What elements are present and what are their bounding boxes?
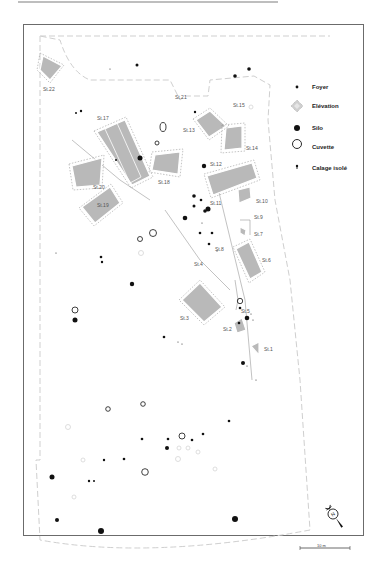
silo-points — [50, 64, 251, 535]
legend-item-foyer: Foyer — [290, 80, 328, 94]
structure-st20 — [72, 158, 102, 187]
excavation-boundary — [36, 36, 330, 548]
svg-text:St.20: St.20 — [93, 184, 105, 190]
structure-st1 — [251, 342, 259, 355]
structure-st7 — [240, 227, 246, 236]
structure-st6 — [236, 242, 262, 279]
svg-text:St.9: St.9 — [254, 214, 263, 220]
structure-st2 — [234, 318, 246, 333]
legend-item-calage: Calage isolé — [290, 161, 347, 175]
foyer-symbol-icon — [290, 80, 304, 94]
structure-outlines — [37, 53, 265, 325]
calage-symbol-icon — [290, 161, 304, 175]
svg-text:St.5: St.5 — [241, 308, 250, 314]
svg-text:St.19: St.19 — [97, 202, 109, 208]
svg-text:St.21: St.21 — [175, 94, 187, 100]
cuvette-symbol-icon — [291, 136, 303, 154]
scale-bar-label: 10 m — [317, 543, 326, 548]
legend-item-elevation: Elévation — [290, 99, 339, 113]
structure-st14 — [224, 126, 242, 150]
elevation-symbol-icon — [290, 99, 304, 113]
svg-text:St.2: St.2 — [223, 326, 232, 332]
svg-text:St.22: St.22 — [43, 86, 55, 92]
svg-text:St.12: St.12 — [210, 161, 222, 167]
svg-text:St.1: St.1 — [264, 346, 273, 352]
silo-symbol-icon — [290, 121, 304, 135]
structure-st18 — [152, 152, 180, 174]
calage-points — [55, 68, 256, 380]
structure-st10 — [238, 187, 251, 203]
svg-text:St.7: St.7 — [254, 231, 263, 237]
svg-text:St.11: St.11 — [210, 200, 222, 206]
legend-item-silo: Silo — [290, 121, 323, 135]
svg-text:St.14: St.14 — [246, 145, 258, 151]
svg-text:St.3: St.3 — [180, 315, 189, 321]
structure-st22 — [40, 56, 62, 80]
svg-text:St.4: St.4 — [194, 261, 203, 267]
svg-text:St.6: St.6 — [262, 257, 271, 263]
structures — [40, 56, 262, 355]
north-arrow: N — [324, 504, 347, 530]
svg-text:St.8: St.8 — [215, 246, 224, 252]
svg-text:St.10: St.10 — [256, 198, 268, 204]
svg-text:St.13: St.13 — [183, 127, 195, 133]
svg-text:St.18: St.18 — [158, 179, 170, 185]
svg-text:St.15: St.15 — [233, 102, 245, 108]
structure-st13 — [196, 111, 226, 137]
svg-text:St.17: St.17 — [97, 115, 109, 121]
